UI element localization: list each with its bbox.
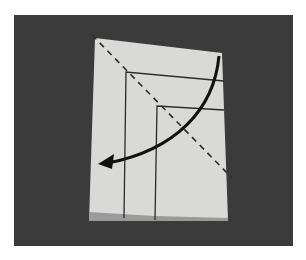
origami-diagram [0, 0, 306, 260]
paper-sheet [89, 38, 228, 221]
